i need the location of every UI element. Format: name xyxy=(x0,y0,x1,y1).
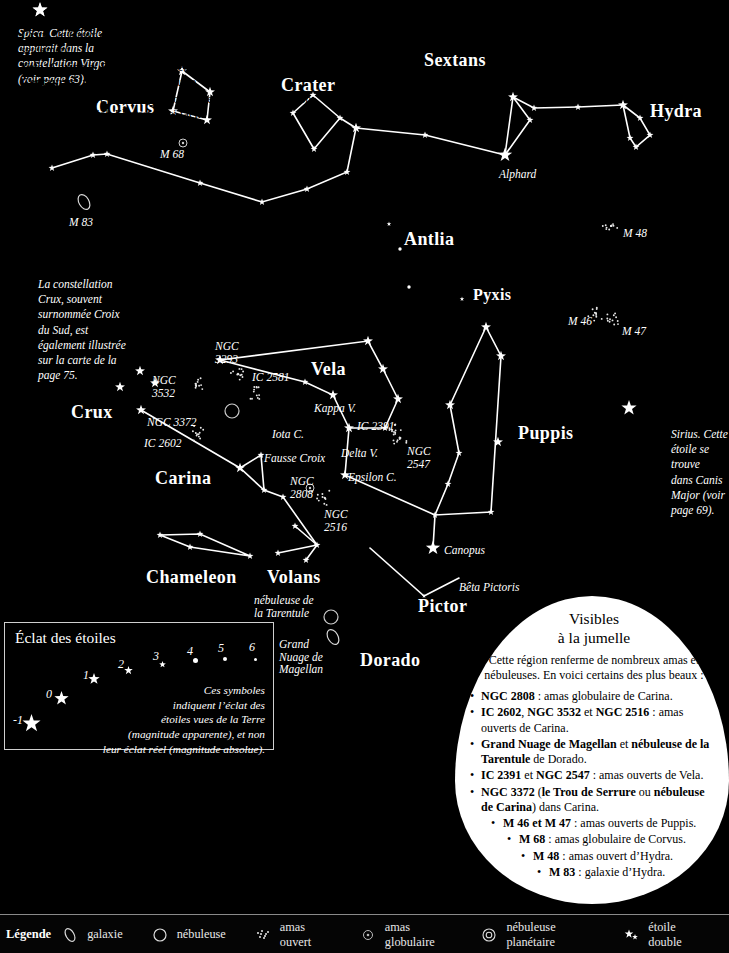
constellation-label-crux: Crux xyxy=(71,402,113,423)
object-label-m-68: M 68 xyxy=(160,148,184,161)
star-label-epsilon-c-: Epsilon C. xyxy=(348,471,397,484)
magnitude-star-4 xyxy=(193,650,198,655)
object-label-ic-2391: IC 2391 xyxy=(357,420,394,433)
annotation-crux: La constellation Crux, souvent surnommée… xyxy=(38,277,126,383)
emphasis-text: IC 2602 xyxy=(481,705,521,719)
constellation-label-carina: Carina xyxy=(155,468,211,489)
galaxy-icon xyxy=(59,926,81,944)
star-glyph xyxy=(398,247,401,250)
emphasis-text: Corvus xyxy=(21,92,59,106)
symbol-legend-bar: Légende galaxienébuleuseamas ouvertamas … xyxy=(0,914,729,953)
constellation-label-chameleon: Chameleon xyxy=(146,567,237,588)
emphasis-text: Puppis xyxy=(101,60,137,74)
emphasis-text: NGC 2547 xyxy=(536,768,590,782)
legend-title: Légende xyxy=(0,927,59,942)
body-text: (voir page 75) de l’autre. xyxy=(75,75,199,89)
body-text: : amas globulaire de Carina. xyxy=(535,689,673,703)
body-text: : amas ouverts de Vela. xyxy=(590,768,704,782)
legend-items: galaxienébuleuseamas ouvertamas globulai… xyxy=(59,920,729,950)
magnitude-star-0 xyxy=(54,691,69,706)
magnitude-star-3 xyxy=(159,655,166,662)
binocular-object-item-6: M 68 : amas globulaire de Corvus. xyxy=(469,832,719,847)
body-text: ) dans Carina. xyxy=(532,800,599,814)
magnitude-panel-title: Éclat des étoiles xyxy=(15,629,116,647)
easy-constellations-list: Crux : la Croix du Sud, visible dans l’h… xyxy=(1,28,323,123)
emphasis-text: NGC 3532 xyxy=(527,705,581,719)
object-label-ngc-2547: NGC 2547 xyxy=(407,445,431,470)
binocular-object-item-0: NGC 2808 : amas globulaire de Carina. xyxy=(469,689,719,704)
emphasis-text: NGC 2808 xyxy=(481,689,535,703)
object-label-grand-nuage-de-magellan: Grand Nuage de Magellan xyxy=(279,638,323,676)
body-text: ou xyxy=(636,785,654,799)
emphasis-text: NGC 3372 xyxy=(481,785,535,799)
binocular-object-item-1: IC 2602, NGC 3532 et NGC 2516 : amas ouv… xyxy=(469,705,719,735)
constellation-label-pyxis: Pyxis xyxy=(473,286,511,304)
legend-item-open-cluster: amas ouvert xyxy=(252,920,331,950)
emphasis-text: NGC 2516 xyxy=(596,705,650,719)
legend-item-label: nébuleuse planétaire xyxy=(506,920,594,950)
object-label-ic-2602: IC 2602 xyxy=(144,437,181,450)
emphasis-text: Crux xyxy=(21,28,48,42)
constellation-label-volans: Volans xyxy=(267,567,321,588)
body-text: et xyxy=(617,737,632,751)
magnitude-legend-panel: Éclat des étoiles -10123456 Ces symboles… xyxy=(4,622,274,750)
emphasis-text: M 48 xyxy=(533,849,559,863)
emphasis-text: M 68 xyxy=(519,832,545,846)
easy-constellation-item-1: Vela, Carina et Puppis se trouvent d’un … xyxy=(21,60,315,91)
annotation-sirius: Sirius. Cette étoile se trouve dans Cani… xyxy=(671,427,729,518)
object-label-ngc-3293: NGC 3293 xyxy=(215,340,239,365)
object-label-ngc-3372: NGC 3372 xyxy=(147,416,197,429)
legend-item-label: amas ouvert xyxy=(280,920,331,950)
easy-constellation-item-2: Corvus se trouve sous Virgo (voir page 6… xyxy=(21,92,315,123)
binocular-object-item-7: M 48 : amas ouvert d’Hydra. xyxy=(469,849,719,864)
star-label-alphard: Alphard xyxy=(499,168,536,181)
emphasis-text: Centaurus xyxy=(21,75,75,89)
constellation-label-dorado: Dorado xyxy=(360,650,420,671)
body-text: se trouve sous Virgo (voir page 63) dans… xyxy=(21,92,311,121)
binocular-object-item-4: NGC 3372 (le Trou de Serrure ou nébuleus… xyxy=(469,785,719,815)
object-label-m-46: M 46 xyxy=(568,315,592,328)
constellation-label-vela: Vela xyxy=(311,359,346,380)
object-label-m-47: M 47 xyxy=(622,325,646,338)
magnitude-star-minus1 xyxy=(22,714,41,733)
legend-item-label: nébuleuse xyxy=(177,927,226,942)
binocular-object-item-8: M 83 : galaxie d’Hydra. xyxy=(469,865,719,880)
object-label-n-buleuse-de-la-tarentule: nébuleuse de la Tarentule xyxy=(254,594,314,619)
star-label-fausse-croix: Fausse Croix xyxy=(264,452,325,465)
magnitude-panel-note: Ces symboles indiquent l’éclat des étoil… xyxy=(89,683,265,756)
constellation-label-hydra: Hydra xyxy=(650,101,702,122)
binocular-objects-list: NGC 2808 : amas globulaire de Carina.IC … xyxy=(469,689,719,880)
constellation-label-pictor: Pictor xyxy=(418,596,467,617)
legend-item-globular-cluster: amas globulaire xyxy=(357,920,453,950)
double-star-icon xyxy=(620,926,642,944)
magnitude-star-2 xyxy=(124,662,133,671)
legend-item-galaxy: galaxie xyxy=(59,926,123,944)
emphasis-text: le Trou de Serrure xyxy=(542,785,636,799)
constellation-label-antlia: Antlia xyxy=(404,229,454,250)
object-label-ic-2581: IC 2581 xyxy=(252,371,289,384)
emphasis-text: Carina xyxy=(49,60,85,74)
object-label-ngc-2808: NGC 2808 xyxy=(290,475,314,500)
binocular-panel-intro: Cette région renferme de nombreux amas e… xyxy=(469,653,719,683)
object-label-m-83: M 83 xyxy=(69,216,93,229)
body-text: ( xyxy=(535,785,542,799)
body-text: de Dorado. xyxy=(530,752,586,766)
star-label-canopus: Canopus xyxy=(444,544,485,557)
constellation-label-sextans: Sextans xyxy=(424,50,486,71)
star-label-b-ta-pictoris: Bêta Pictoris xyxy=(459,581,519,594)
planetary-nebula-icon xyxy=(478,926,500,944)
legend-item-nebula: nébuleuse xyxy=(149,926,226,944)
legend-item-label: étoile double xyxy=(648,920,703,950)
body-text: et xyxy=(581,705,596,719)
binocular-object-item-2: Grand Nuage de Magellan et nébuleuse de … xyxy=(469,737,719,767)
legend-item-planetary-nebula: nébuleuse planétaire xyxy=(478,920,594,950)
nebula-icon xyxy=(149,926,171,944)
star-label-iota-c-: Iota C. xyxy=(272,428,304,441)
object-label-ngc-2516: NGC 2516 xyxy=(324,508,348,533)
magnitude-number-0: 0 xyxy=(46,687,52,702)
emphasis-text: Vela xyxy=(21,60,43,74)
constellation-label-puppis: Puppis xyxy=(518,423,573,444)
star-chart-page: CorvusCraterSextansHydraAntliaPyxisVelaC… xyxy=(0,0,729,953)
body-text: : galaxie d’Hydra. xyxy=(575,865,665,879)
body-text: et xyxy=(86,60,101,74)
